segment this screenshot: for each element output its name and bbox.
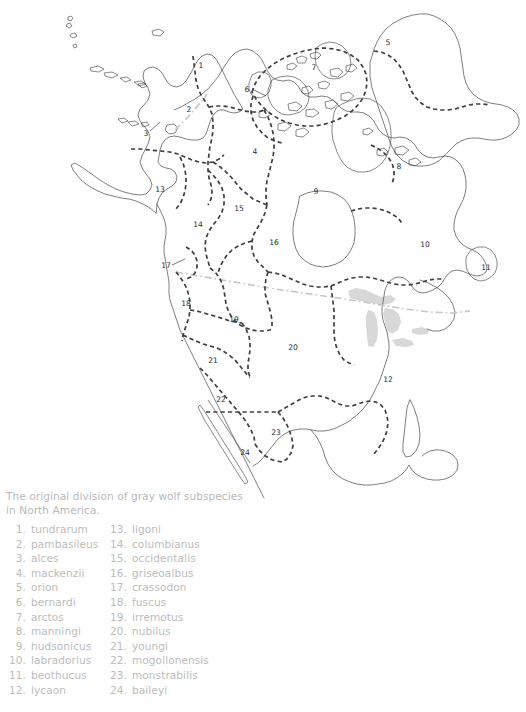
legend-item-number: 6. (6, 595, 26, 610)
arctic-islet-14 (395, 146, 409, 155)
map-region-label-15: 15 (234, 204, 244, 213)
coastline-florida (403, 400, 420, 457)
map-region-label-5: 5 (386, 38, 391, 47)
legend-item-number: 24. (107, 683, 127, 698)
arctic-islet-18 (296, 128, 309, 137)
legend-item-label: alces (26, 551, 59, 566)
legend-item: 20.nubilus (107, 624, 209, 639)
coastline-hudson-bay (293, 191, 355, 267)
legend-item: 4.mackenzii (6, 566, 98, 581)
legend-item: 1.tundrarum (6, 522, 98, 537)
boundary-13 (176, 157, 186, 209)
boundary-19 (210, 268, 272, 331)
legend-column-right: 13.ligoni14.columbianus15.occidentalis16… (107, 522, 209, 697)
legend-item-number: 9. (6, 639, 26, 654)
map-region-label-8: 8 (397, 162, 402, 171)
aleutian-island-6 (104, 72, 118, 78)
legend-item: 9.hudsonicus (6, 639, 98, 654)
legend-item: 16.griseoalbus (107, 566, 209, 581)
legend-item-label: tundrarum (26, 522, 88, 537)
baja-california-peninsula (198, 405, 248, 484)
legend-item: 7.arctos (6, 610, 98, 625)
lake-huron (383, 308, 401, 334)
legend-item: 17.crassodon (107, 580, 209, 595)
legend-column-left: 1.tundrarum2.pambasileus3.alces4.mackenz… (6, 522, 98, 697)
map-region-label-4: 4 (253, 147, 258, 156)
victoria-island (268, 76, 309, 115)
map-region-label-13: 13 (155, 185, 165, 194)
legend-item: 5.orion (6, 580, 98, 595)
legend-item-label: mogollonensis (127, 653, 209, 668)
map-region-label-7: 7 (312, 63, 317, 72)
map-region-label-18: 18 (181, 299, 191, 308)
map-region-label-6: 6 (245, 85, 250, 94)
legend-item: 19.irremotus (107, 610, 209, 625)
map-region-label-24: 24 (240, 448, 250, 457)
map-label-layer: 123456789101112131415161718192021222324 (144, 38, 491, 457)
map-region-label-14: 14 (193, 220, 203, 229)
legend-item-number: 7. (6, 610, 26, 625)
legend-item-number: 3. (6, 551, 26, 566)
boundary-6 (251, 96, 282, 143)
legend-item-number: 8. (6, 624, 26, 639)
north-america-map-svg: 123456789101112131415161718192021222324 (0, 0, 526, 500)
aleutian-island-10 (128, 121, 139, 126)
lake-erie (392, 338, 414, 347)
boundary-4-9 (264, 110, 274, 205)
boundary-9-16 (252, 205, 268, 272)
boundary-1-2 (193, 56, 213, 205)
legend-item-label: bernardi (26, 595, 76, 610)
map-region-label-12: 12 (383, 375, 393, 384)
caption-line-1: The original division of gray wolf subsp… (6, 489, 306, 503)
legend-item-number: 17. (107, 580, 127, 595)
legend-item: 21.youngi (107, 639, 209, 654)
legend-item-label: baileyi (127, 683, 167, 698)
boundary-8 (371, 145, 394, 184)
leader-line-3 (150, 122, 160, 131)
ellesmere-island (315, 42, 351, 79)
subspecies-legend: 1.tundrarum2.pambasileus3.alces4.mackenz… (0, 522, 300, 712)
legend-item-label: griseoalbus (127, 566, 194, 581)
map-region-label-11: 11 (481, 263, 491, 272)
legend-item: 10.labradorius (6, 653, 98, 668)
legend-item-number: 10. (6, 653, 26, 668)
legend-item: 13.ligoni (107, 522, 209, 537)
map-region-label-20: 20 (288, 343, 298, 352)
legend-item-number: 1. (6, 522, 26, 537)
lake-ontario (412, 327, 429, 335)
arctic-islet-3 (287, 63, 297, 70)
legend-item-number: 11. (6, 668, 26, 683)
legend-item: 2.pambasileus (6, 537, 98, 552)
legend-item-number: 4. (6, 566, 26, 581)
leader-line-17 (172, 259, 185, 265)
lake-michigan (366, 310, 378, 347)
legend-item-label: lycaon (26, 683, 66, 698)
legend-item-number: 19. (107, 610, 127, 625)
boundary-2-south (131, 149, 224, 163)
legend-item-number: 2. (6, 537, 26, 552)
legend-item-number: 15. (107, 551, 127, 566)
boundary-21-20 (242, 323, 250, 377)
legend-item-label: columbianus (127, 537, 200, 552)
map-region-label-19: 19 (229, 315, 239, 324)
legend-item-label: monstrabilis (127, 668, 198, 683)
legend-item-label: nubilus (127, 624, 171, 639)
map-region-label-3: 3 (144, 129, 149, 138)
boundary-14-15 (205, 170, 224, 268)
legend-item: 23.monstrabilis (107, 668, 209, 683)
legend-item: 6.bernardi (6, 595, 98, 610)
map-region-label-10: 10 (420, 240, 430, 249)
legend-item-number: 5. (6, 580, 26, 595)
arctic-islet-4 (318, 81, 330, 89)
legend-item: 15.occidentalis (107, 551, 209, 566)
map-region-label-16: 16 (269, 238, 279, 247)
aleutian-island-2 (66, 23, 72, 28)
legend-item-label: arctos (26, 610, 64, 625)
great-lakes-group (348, 288, 429, 347)
coastline-group (66, 14, 519, 498)
st-lawrence-island (152, 29, 164, 36)
legend-item-number: 18. (107, 595, 127, 610)
aleutian-island-5 (90, 66, 104, 72)
boundary-15-16 (218, 241, 252, 273)
legend-item-number: 22. (107, 653, 127, 668)
